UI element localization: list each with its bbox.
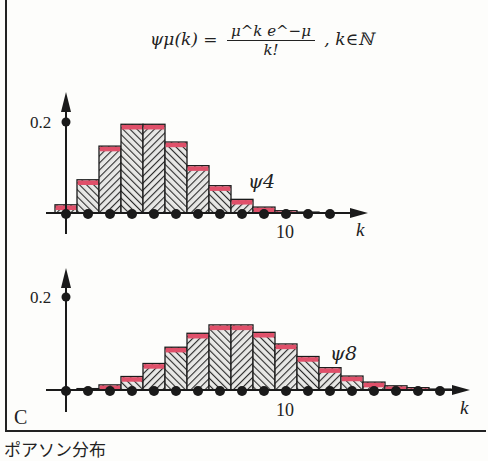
k-dot: [435, 386, 445, 396]
y-tick-dot: [62, 118, 71, 127]
k-dot: [391, 386, 401, 396]
y-axis-arrow: [61, 92, 71, 112]
k-dot: [193, 209, 203, 219]
bar-top: [210, 326, 231, 331]
bar-top: [254, 333, 275, 338]
k-dot: [281, 386, 291, 396]
chart-psi-4: 0.210kψ4: [30, 92, 368, 242]
k-dot: [127, 209, 137, 219]
k-dot: [171, 209, 181, 219]
bar: [209, 325, 231, 390]
k-dot: [215, 386, 225, 396]
bar-top: [188, 334, 209, 339]
series-label: ψ8: [330, 342, 357, 364]
k-dot: [303, 209, 313, 219]
k-dot: [61, 209, 71, 219]
k-dot: [127, 386, 137, 396]
bar-top: [166, 143, 187, 148]
bar: [143, 124, 165, 213]
k-dot: [325, 209, 335, 219]
figure-caption: ポアソン分布: [4, 436, 106, 461]
k-dot: [83, 209, 93, 219]
k-dot: [347, 386, 357, 396]
k-dot: [61, 386, 71, 396]
bar: [275, 344, 297, 390]
k-dot: [171, 386, 181, 396]
series-label: ψ4: [248, 170, 275, 192]
x-axis-arrow: [350, 208, 368, 218]
bar-top: [320, 368, 341, 373]
k-dot: [215, 209, 225, 219]
bar-top: [144, 364, 165, 369]
bar-top: [232, 326, 253, 331]
y-axis-arrow: [61, 268, 71, 288]
bar: [121, 124, 143, 213]
k-dot: [237, 386, 247, 396]
bar-top: [276, 345, 297, 350]
k-dot: [105, 209, 115, 219]
y-tick-label: 0.2: [30, 113, 51, 132]
x-axis-label: k: [356, 219, 365, 240]
bar-top: [210, 186, 231, 191]
bar-top: [166, 348, 187, 353]
bar-top: [342, 377, 363, 382]
bar: [165, 142, 187, 213]
bar-top: [100, 147, 121, 152]
k-dot: [369, 386, 379, 396]
x-tick-label: 10: [276, 222, 294, 242]
bar-top: [188, 166, 209, 171]
k-dot: [281, 209, 291, 219]
bar-top: [232, 200, 253, 205]
bar-top: [144, 125, 165, 130]
bar: [231, 325, 253, 390]
k-dot: [83, 386, 93, 396]
k-dot: [105, 386, 115, 396]
k-dot: [259, 386, 269, 396]
y-tick-label: 0.2: [30, 288, 51, 307]
bar-top: [298, 357, 319, 362]
k-dot: [325, 386, 335, 396]
k-dot: [193, 386, 203, 396]
bar-top: [122, 125, 143, 130]
bar: [187, 166, 209, 213]
k-dot: [303, 386, 313, 396]
bar-top: [78, 180, 99, 185]
k-dot: [149, 209, 159, 219]
bar-top: [122, 377, 143, 382]
x-axis-label: k: [460, 397, 469, 418]
k-dot: [149, 386, 159, 396]
bar: [187, 333, 209, 390]
chart-psi-8: 0.210kψ8: [30, 268, 470, 420]
x-tick-label: 10: [276, 400, 294, 420]
bar: [99, 146, 121, 213]
panel-label: C: [14, 406, 27, 429]
k-dot: [237, 209, 247, 219]
k-dot: [413, 386, 423, 396]
y-tick-dot: [62, 293, 71, 302]
bar: [253, 332, 275, 390]
x-axis-arrow: [452, 385, 470, 395]
k-dot: [259, 209, 269, 219]
bar: [165, 347, 187, 390]
